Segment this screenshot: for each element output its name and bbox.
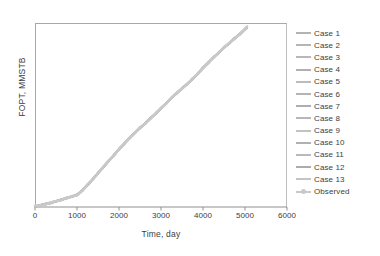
legend-item[interactable]: Case 6 [296, 88, 380, 100]
legend-item-label: Case 13 [311, 175, 345, 184]
legend-swatch-line [296, 154, 311, 156]
legend-swatch-line [296, 32, 311, 34]
legend-item[interactable]: Case 12 [296, 161, 380, 173]
data-series-line [35, 27, 247, 207]
data-series-line [35, 27, 247, 206]
legend-item[interactable]: Case 1 [296, 27, 380, 39]
legend-swatch-line [296, 117, 311, 119]
legend-swatch-line [296, 166, 311, 168]
legend-line-icon [296, 76, 311, 88]
legend-item[interactable]: Case 9 [296, 125, 380, 137]
legend-item[interactable]: Observed [296, 185, 380, 197]
legend-line-icon [296, 51, 311, 63]
chart-figure: FOPT, MMSTB 0100020003000400050006000 Ti… [0, 0, 380, 256]
x-axis-title: Time, day [35, 229, 287, 239]
x-axis-tick-label: 0 [15, 211, 55, 220]
legend-item[interactable]: Case 3 [296, 51, 380, 63]
legend-line-icon [296, 137, 311, 149]
legend-line-marker-icon [296, 186, 311, 198]
legend-item[interactable]: Case 7 [296, 100, 380, 112]
y-axis-title: FOPT, MMSTB [17, 27, 27, 147]
data-series-line [35, 27, 247, 206]
legend-item-label: Case 4 [311, 65, 340, 74]
data-series-line [35, 27, 247, 207]
x-axis-tick-label: 2000 [99, 211, 139, 220]
legend-item[interactable]: Case 5 [296, 76, 380, 88]
x-axis-tick-marks [35, 207, 287, 211]
legend-item-label: Case 5 [311, 77, 340, 86]
legend-item-label: Case 12 [311, 163, 345, 172]
legend-item[interactable]: Case 8 [296, 112, 380, 124]
legend-swatch-line [296, 81, 311, 83]
legend-line-icon [296, 149, 311, 161]
legend-line-icon [296, 88, 311, 100]
x-axis-tick-label: 1000 [57, 211, 97, 220]
legend-swatch-dot [301, 189, 306, 194]
legend-item-label: Case 8 [311, 114, 340, 123]
chart-legend: Case 1Case 2Case 3Case 4Case 5Case 6Case… [296, 27, 380, 198]
legend-swatch-line [296, 142, 311, 144]
legend-line-icon [296, 161, 311, 173]
legend-item-label: Case 11 [311, 150, 344, 159]
legend-swatch-line [296, 69, 311, 71]
legend-item[interactable]: Case 11 [296, 149, 380, 161]
legend-item-label: Case 2 [311, 41, 340, 50]
legend-item-label: Case 10 [311, 138, 345, 147]
legend-item-label: Observed [311, 187, 349, 196]
x-axis-tick-label: 3000 [141, 211, 181, 220]
legend-swatch-line [296, 178, 311, 180]
legend-item-label: Case 1 [311, 29, 340, 38]
legend-swatch-line [296, 44, 311, 46]
legend-item-label: Case 7 [311, 102, 340, 111]
data-series-line [35, 27, 247, 206]
legend-item-label: Case 3 [311, 53, 340, 62]
legend-item[interactable]: Case 2 [296, 39, 380, 51]
legend-item-label: Case 6 [311, 90, 340, 99]
legend-swatch-line [296, 130, 311, 132]
legend-line-icon [296, 112, 311, 124]
data-series-line [35, 27, 247, 206]
data-series-line [35, 27, 247, 207]
legend-line-icon [296, 27, 311, 39]
x-axis-tick-label: 6000 [267, 211, 307, 220]
legend-swatch-line [296, 93, 311, 95]
legend-item[interactable]: Case 13 [296, 173, 380, 185]
legend-line-icon [296, 100, 311, 112]
x-axis-tick-label: 5000 [225, 211, 265, 220]
legend-swatch-line [296, 105, 311, 107]
legend-line-icon [296, 125, 311, 137]
legend-line-icon [296, 39, 311, 51]
legend-line-icon [296, 173, 311, 185]
data-series-line [35, 27, 247, 206]
data-series-group [35, 27, 247, 207]
legend-swatch-line [296, 56, 311, 58]
legend-item[interactable]: Case 4 [296, 64, 380, 76]
legend-item-label: Case 9 [311, 126, 340, 135]
data-series-line [35, 27, 247, 206]
x-axis-tick-label: 4000 [183, 211, 223, 220]
data-series-line [35, 27, 247, 207]
legend-item[interactable]: Case 10 [296, 137, 380, 149]
data-series-line [35, 27, 247, 206]
legend-line-icon [296, 64, 311, 76]
